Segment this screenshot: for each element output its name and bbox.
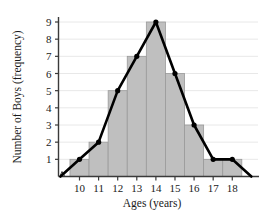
x-tick-label: 18 xyxy=(227,182,239,194)
chart-svg: 123456789 101112131415161718 Ages (years… xyxy=(0,0,271,221)
data-point-marker xyxy=(77,157,82,162)
data-point-marker xyxy=(153,19,158,24)
bar xyxy=(185,125,204,177)
x-axis-title: Ages (years) xyxy=(123,197,182,210)
data-point-marker xyxy=(134,54,139,59)
x-axis-tick-labels: 101112131415161718 xyxy=(74,182,238,194)
data-point-marker xyxy=(230,157,235,162)
x-tick-label: 12 xyxy=(112,182,123,194)
y-tick-label: 4 xyxy=(46,102,52,114)
x-tick-label: 14 xyxy=(150,182,162,194)
bar xyxy=(127,56,146,176)
x-tick-label: 13 xyxy=(131,182,143,194)
y-tick-label: 1 xyxy=(46,153,52,165)
y-tick-label: 3 xyxy=(46,119,52,131)
data-point-marker xyxy=(96,140,101,145)
x-tick-label: 17 xyxy=(208,182,220,194)
y-tick-label: 2 xyxy=(46,136,52,148)
y-tick-label: 6 xyxy=(46,68,52,80)
y-tick-label: 5 xyxy=(46,85,52,97)
y-tick-label: 8 xyxy=(46,33,52,45)
x-tick-label: 16 xyxy=(189,182,201,194)
bar xyxy=(146,22,165,177)
x-tick-label: 11 xyxy=(93,182,104,194)
y-tick-label: 9 xyxy=(46,16,52,28)
y-axis-title: Number of Boys (frequency) xyxy=(11,30,24,163)
y-axis-tick-labels: 123456789 xyxy=(46,16,52,165)
histogram-frequency-polygon-chart: 123456789 101112131415161718 Ages (years… xyxy=(0,0,271,221)
data-point-marker xyxy=(211,157,216,162)
x-tick-label: 15 xyxy=(169,182,181,194)
x-tick-label: 10 xyxy=(74,182,86,194)
bar xyxy=(108,91,127,177)
data-point-marker xyxy=(191,122,196,127)
data-point-marker xyxy=(115,88,120,93)
data-point-marker xyxy=(172,71,177,76)
y-tick-label: 7 xyxy=(46,50,52,62)
